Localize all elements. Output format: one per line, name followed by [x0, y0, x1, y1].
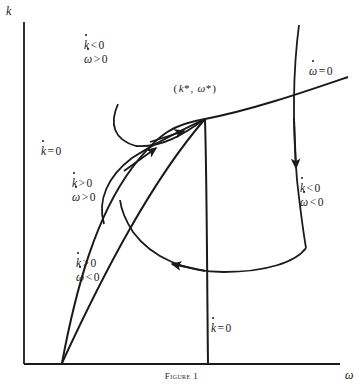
value: 0	[87, 177, 93, 189]
region-line-1: k<0	[84, 38, 107, 52]
kdot-zero-line-label: k=0	[211, 321, 231, 335]
region-line-2: ω>0	[84, 52, 107, 66]
operator: <	[305, 182, 315, 194]
region-line-1: k>0	[72, 176, 95, 190]
operator: >	[80, 191, 90, 203]
region-line-2: ω<0	[300, 195, 323, 209]
kdot-zero-curve-label: k=0	[41, 144, 61, 158]
region-label-right: k<0 ω<0	[300, 181, 323, 210]
operator: >	[81, 257, 91, 269]
operator: <	[308, 196, 318, 208]
k-dot-variable: k	[76, 256, 81, 270]
operator: >	[92, 53, 102, 65]
value: 0	[91, 257, 97, 269]
region-line-1: k>0	[76, 256, 99, 270]
y-axis-label: k	[6, 4, 11, 19]
figure-caption: Figure 1	[0, 371, 363, 381]
omega-star: ω*	[198, 82, 211, 94]
value: 0	[327, 65, 333, 77]
value: 0	[90, 191, 96, 203]
k-dot-variable: k	[72, 176, 77, 190]
k-dot-variable: k	[300, 181, 305, 195]
dot-accent-icon	[312, 60, 314, 62]
operator: =	[317, 65, 327, 77]
trajectory-vertical-right	[294, 25, 306, 248]
equilibrium-point-label: (k*, ω*)	[172, 82, 218, 96]
value: 0	[99, 39, 105, 51]
region-label-mid-left: k>0 ω>0	[72, 176, 95, 205]
kdot-zero-vertical-path	[205, 119, 208, 363]
trajectory-u-loop	[120, 200, 306, 272]
omega-dot-variable: ω	[300, 195, 308, 209]
operator: =	[46, 145, 56, 157]
value: 0	[315, 182, 321, 194]
region-line-1: k<0	[300, 181, 323, 195]
region-line-2: ω>0	[72, 190, 95, 204]
region-line-2: ω<0	[76, 270, 99, 284]
value: 0	[318, 196, 324, 208]
trajectory-u-loop-arrow	[172, 264, 205, 271]
operator: >	[77, 177, 87, 189]
paren-open: (	[172, 82, 179, 94]
operator: <	[89, 39, 99, 51]
operator: =	[216, 322, 226, 334]
comma: ,	[189, 82, 198, 94]
operator: <	[84, 271, 94, 283]
omegadot-zero-label: ω=0	[309, 64, 332, 78]
paren-close: )	[211, 82, 218, 94]
trajectory-vertical-right-arrow	[294, 118, 296, 168]
region-label-upper-left: k<0 ω>0	[84, 38, 107, 67]
region-label-lower-mid: k>0 ω<0	[76, 256, 99, 285]
omega-dot-variable: ω	[72, 190, 80, 204]
value: 0	[94, 271, 100, 283]
k-dot-variable: k	[211, 321, 216, 335]
omega-dot-variable: ω	[84, 52, 92, 66]
value: 0	[226, 322, 232, 334]
value: 0	[102, 53, 108, 65]
saddle-path-stable	[62, 119, 205, 363]
omega-dot-variable: ω	[309, 64, 317, 78]
k-dot-variable: k	[41, 144, 46, 158]
value: 0	[56, 145, 62, 157]
k-star: k*	[179, 82, 189, 94]
phase-diagram-figure: k ω (k*, ω*) k=0 k=0 ω=0 k<0 ω>0 k>0 ω>0…	[0, 0, 363, 389]
k-dot-variable: k	[84, 38, 89, 52]
omega-dot-variable: ω	[76, 270, 84, 284]
